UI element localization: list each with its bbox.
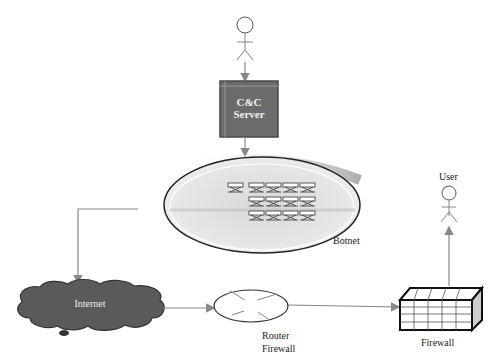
cc-server-label: C&C Server <box>220 96 278 120</box>
router-label-line1: Router <box>262 329 295 342</box>
router-label-line2: Firewall <box>262 342 295 355</box>
cc-server-label-line1: C&C <box>220 96 278 108</box>
attacker-figure-icon <box>237 17 253 60</box>
user-label: User <box>439 171 458 182</box>
router-firewall-label: Router Firewall <box>262 329 295 355</box>
botnet-ellipse <box>164 157 360 253</box>
arrow-router-to-firewall <box>288 305 398 307</box>
user-figure-icon <box>441 186 457 222</box>
cloud-tail <box>59 330 69 336</box>
firewall-label: Firewall <box>421 337 454 348</box>
internet-label: Internet <box>55 298 125 309</box>
firewall-icon <box>400 288 482 330</box>
botnet-label: Botnet <box>333 235 360 246</box>
cc-server-label-line2: Server <box>220 108 278 120</box>
arrow-botnet-to-internet <box>78 209 138 282</box>
router-firewall-ellipse <box>214 290 288 322</box>
